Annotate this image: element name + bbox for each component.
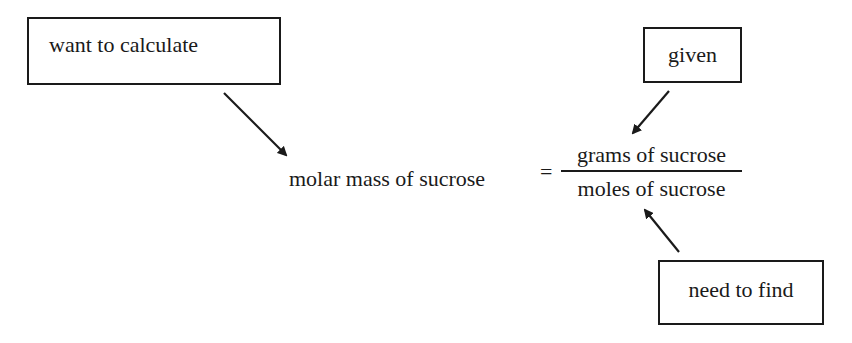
arrow-want-to-lhs-icon	[224, 93, 286, 155]
want-to-calculate-box: want to calculate	[27, 17, 281, 85]
need-to-find-label: need to find	[660, 279, 822, 301]
arrow-given-to-numerator-icon	[633, 91, 669, 133]
fraction-denominator: moles of sucrose	[561, 178, 742, 200]
given-label: given	[645, 44, 740, 66]
given-box: given	[643, 27, 742, 83]
need-to-find-box: need to find	[658, 260, 824, 325]
fraction: grams of sucrose moles of sucrose	[561, 144, 742, 200]
fraction-numerator: grams of sucrose	[561, 144, 742, 166]
equation-lhs: molar mass of sucrose	[289, 168, 485, 190]
arrow-need-to-denominator-icon	[645, 210, 679, 252]
fraction-bar	[561, 170, 742, 172]
equals-sign: =	[540, 161, 552, 183]
want-to-calculate-label: want to calculate	[49, 34, 198, 56]
